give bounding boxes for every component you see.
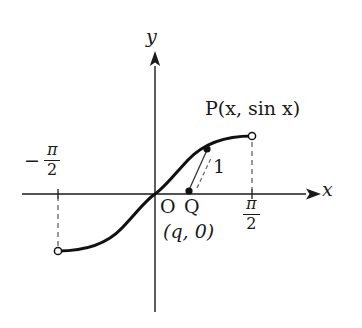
point-P-label: P(x, sin x) [205,99,300,118]
segment-length-label: 1 [213,157,225,176]
point-Q-marker [185,187,192,194]
fraction-numerator: π [44,142,61,159]
minus-sign-glyph: − [24,149,40,171]
fraction-numerator: π [243,196,260,213]
fraction-denominator: 2 [44,162,60,179]
fraction-neg-half-pi: π 2 [44,142,61,179]
y-axis-arrowhead [150,51,160,66]
tick-label-neg-half-pi: − π 2 [24,142,60,179]
x-axis-label: x [322,180,333,199]
point-Q-coords-label: (q, 0) [163,222,214,241]
point-Q-label: Q [184,197,200,216]
fraction-half-pi: π 2 [243,196,260,233]
origin-label: O [160,197,176,216]
y-axis-label: y [146,27,157,46]
x-axis-arrowhead [306,189,321,200]
tick-label-half-pi: π 2 [243,196,260,233]
point-P-marker [203,145,210,152]
endpoint-left-open-circle [54,247,61,254]
dashed-length-hint [197,156,212,188]
fraction-denominator: 2 [243,216,259,233]
endpoint-right-open-circle [248,132,255,139]
sine-curve-figure: x y P(x, sin x) O Q (q, 0) 1 − π 2 π 2 [0,0,362,328]
